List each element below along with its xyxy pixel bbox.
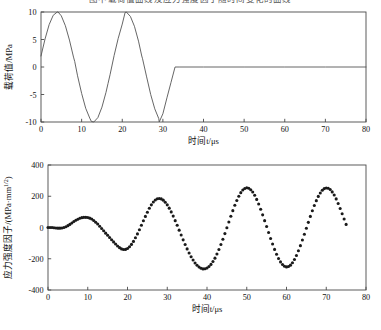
y-tick-label: 200 bbox=[31, 192, 43, 201]
x-tick-label: 60 bbox=[282, 293, 290, 302]
y-tick-label: 0 bbox=[39, 224, 43, 233]
x-tick-label: 40 bbox=[199, 125, 207, 134]
y-tick-label: -400 bbox=[28, 286, 43, 295]
y-tick-label: -5 bbox=[30, 91, 37, 100]
load-history-svg: 01020304050607080-10-50510时间t/μs载荷值/MPa bbox=[0, 6, 381, 151]
x-tick-label: 20 bbox=[123, 293, 131, 302]
x-tick-label: 60 bbox=[281, 125, 289, 134]
x-axis-title: 时间t/μs bbox=[192, 303, 223, 314]
data-series-line bbox=[41, 12, 366, 122]
y-axis-title: 载荷值/MPa bbox=[3, 44, 14, 90]
y-tick-label: -10 bbox=[26, 118, 37, 127]
y-tick-label: -200 bbox=[28, 255, 43, 264]
load-history-plot: 01020304050607080-10-50510时间t/μs载荷值/MPa bbox=[0, 6, 381, 151]
y-tick-label: 400 bbox=[31, 161, 43, 170]
y-tick-label: 0 bbox=[32, 63, 36, 72]
figure-top-caption: 图中载荷值曲线及应力强度因子随时间变化的曲线 bbox=[0, 0, 381, 4]
stress-intensity-factor-svg: 01020304050607080-400-2000200400时间t/μs应力… bbox=[0, 158, 381, 330]
x-tick-label: 30 bbox=[159, 125, 167, 134]
x-tick-label: 0 bbox=[39, 125, 43, 134]
x-tick-label: 40 bbox=[203, 293, 211, 302]
data-series-points bbox=[46, 186, 347, 270]
y-tick-label: 5 bbox=[32, 36, 36, 45]
x-axis-title: 时间t/μs bbox=[188, 135, 219, 146]
x-tick-label: 10 bbox=[84, 293, 92, 302]
x-tick-label: 70 bbox=[321, 125, 329, 134]
x-tick-label: 30 bbox=[163, 293, 171, 302]
y-tick-label: 10 bbox=[28, 8, 36, 17]
figure-page: 图中载荷值曲线及应力强度因子随时间变化的曲线 01020304050607080… bbox=[0, 0, 381, 330]
x-tick-label: 80 bbox=[362, 125, 370, 134]
x-tick-label: 0 bbox=[46, 293, 50, 302]
y-axis-title: 应力强度因子/(MPa·mm1/2) bbox=[2, 176, 13, 278]
x-tick-label: 10 bbox=[78, 125, 86, 134]
x-tick-label: 20 bbox=[118, 125, 126, 134]
plot-frame bbox=[48, 165, 366, 290]
x-tick-label: 50 bbox=[240, 125, 248, 134]
x-tick-label: 70 bbox=[322, 293, 330, 302]
stress-intensity-factor-plot: 01020304050607080-400-2000200400时间t/μs应力… bbox=[0, 158, 381, 330]
x-tick-label: 50 bbox=[243, 293, 251, 302]
x-tick-label: 80 bbox=[362, 293, 370, 302]
